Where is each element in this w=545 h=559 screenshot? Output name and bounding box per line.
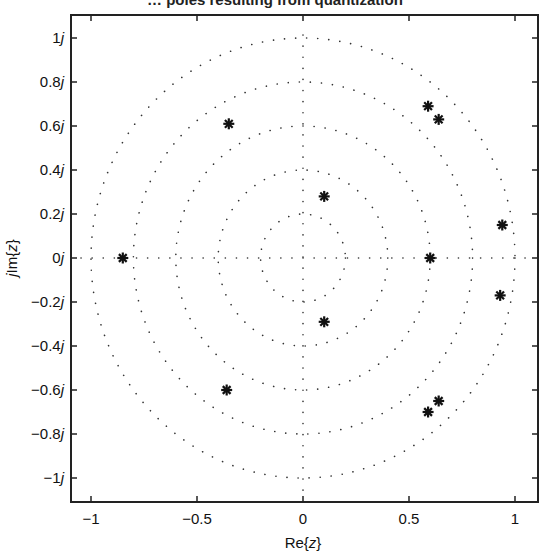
pole-zero-plot: −1−0.500.511j0.8j0.6j0.4j0.2j0j−0.2j−0.4…: [0, 0, 545, 559]
x-tick-label: −0.5: [182, 510, 212, 527]
y-tick-label: 0.8j: [40, 73, 65, 90]
pole-marker: [495, 290, 506, 301]
x-tick-label: −1: [82, 510, 99, 527]
x-tick-label: 1: [511, 510, 519, 527]
pole-marker: [433, 114, 444, 125]
y-axis-label: jIm{z}: [3, 239, 20, 279]
y-tick-label: 0j: [52, 249, 64, 266]
pole-marker: [117, 253, 128, 264]
pole-marker: [423, 101, 434, 112]
x-axis-label: Re{z}: [285, 534, 322, 551]
y-tick-label: −1j: [44, 469, 65, 486]
y-tick-label: 0.2j: [40, 205, 65, 222]
pole-marker: [319, 191, 330, 202]
y-tick-label: −0.4j: [31, 337, 65, 354]
y-tick-label: 0.6j: [40, 117, 65, 134]
y-tick-label: 0.4j: [40, 161, 65, 178]
y-tick-label: −0.2j: [31, 293, 65, 310]
pole-marker: [423, 407, 434, 418]
y-tick-label: −0.8j: [31, 425, 65, 442]
pole-marker: [223, 118, 234, 129]
y-tick-label: −0.6j: [31, 381, 65, 398]
x-tick-label: 0.5: [399, 510, 420, 527]
y-tick-label: 1j: [52, 29, 64, 46]
pole-marker: [497, 220, 508, 231]
pole-marker: [425, 253, 436, 264]
x-tick-label: 0: [299, 510, 307, 527]
pole-marker: [319, 316, 330, 327]
pole-marker: [433, 396, 444, 407]
pole-marker: [221, 385, 232, 396]
plot-frame: [71, 15, 538, 502]
